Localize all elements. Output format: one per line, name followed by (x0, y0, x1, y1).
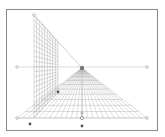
floor-radial-line (82, 68, 87, 118)
floor-radial-line (82, 68, 104, 118)
floor-right-handle[interactable] (146, 117, 149, 120)
horizon-left-handle[interactable] (16, 66, 19, 69)
floor-radial-line (60, 68, 82, 118)
wall-horizontal-line (34, 82, 58, 97)
wall-top-handle[interactable] (33, 14, 36, 17)
floor-radial-line (82, 68, 131, 118)
wall-horizontal-line (34, 20, 58, 44)
perspective-grid-canvas[interactable] (0, 0, 165, 137)
wall-far-handle[interactable] (57, 91, 60, 94)
wall-corner-handle[interactable] (29, 123, 32, 126)
perspective-grid-svg (0, 0, 165, 137)
vanishing-point-handle[interactable] (80, 66, 84, 70)
floor-left-handle[interactable] (16, 117, 19, 120)
floor-radial-line (39, 68, 82, 118)
wall-horizontal-line (34, 72, 58, 77)
wall-grid (34, 15, 58, 118)
wall-horizontal-line (34, 61, 58, 64)
floor-radial-line (82, 68, 125, 118)
center-ring-handle[interactable] (80, 116, 83, 119)
floor-radial-line (82, 68, 109, 118)
floor-radial-line (82, 68, 142, 118)
center-bottom-handle[interactable] (81, 125, 84, 128)
floor-radial-line (22, 68, 82, 118)
wall-horizontal-line (34, 56, 58, 62)
floor-radial-line (77, 68, 82, 118)
horizon-right-handle[interactable] (146, 66, 149, 69)
floor-radial-line (82, 68, 115, 118)
wall-horizontal-line (34, 70, 58, 72)
wall-horizontal-line (34, 30, 58, 49)
wall-horizontal-line (34, 75, 58, 82)
wall-horizontal-line (34, 77, 58, 87)
